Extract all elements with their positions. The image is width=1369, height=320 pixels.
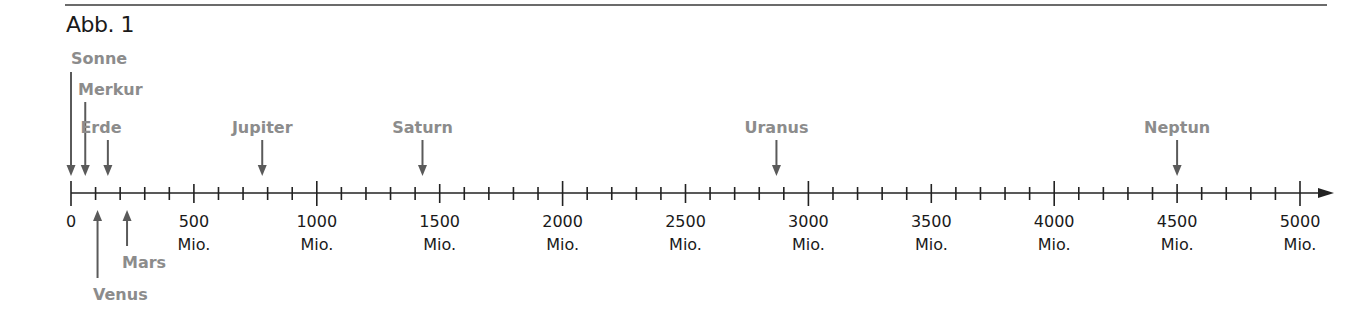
tick-label-unit: Mio.	[669, 235, 702, 254]
tick-label-unit: Mio.	[1161, 235, 1194, 254]
arrow-down-icon	[81, 165, 90, 176]
tick-label-value: 0	[66, 212, 76, 231]
tick-label-value: 3000	[788, 212, 829, 231]
tick-label-unit: Mio.	[792, 235, 825, 254]
number-line-chart: 0500Mio.1000Mio.1500Mio.2000Mio.2500Mio.…	[0, 0, 1369, 320]
solar-system-number-line-figure: Abb. 1 0500Mio.1000Mio.1500Mio.2000Mio.2…	[0, 0, 1369, 320]
arrow-up-icon	[123, 210, 132, 221]
planet-label-sonne: Sonne	[71, 49, 127, 68]
tick-label-value: 1500	[419, 212, 460, 231]
tick-label-unit: Mio.	[423, 235, 456, 254]
tick-label-value: 4000	[1034, 212, 1075, 231]
arrow-down-icon	[103, 165, 112, 176]
axis-arrowhead-icon	[1318, 188, 1334, 198]
planet-label-erde: Erde	[80, 118, 121, 137]
tick-label-value: 3500	[911, 212, 952, 231]
arrow-up-icon	[93, 210, 102, 221]
tick-label-unit: Mio.	[177, 235, 210, 254]
planet-label-uranus: Uranus	[744, 118, 808, 137]
planet-label-mars: Mars	[122, 253, 166, 272]
planet-label-saturn: Saturn	[392, 118, 453, 137]
tick-label-value: 2500	[665, 212, 706, 231]
tick-label-unit: Mio.	[300, 235, 333, 254]
arrow-down-icon	[258, 165, 267, 176]
arrow-down-icon	[1173, 165, 1182, 176]
tick-label-unit: Mio.	[1284, 235, 1317, 254]
tick-label-value: 5000	[1280, 212, 1321, 231]
tick-label-value: 2000	[542, 212, 583, 231]
planet-label-neptun: Neptun	[1144, 118, 1210, 137]
tick-label-unit: Mio.	[915, 235, 948, 254]
planet-label-jupiter: Jupiter	[231, 118, 293, 137]
tick-label-unit: Mio.	[1038, 235, 1071, 254]
tick-label-value: 4500	[1157, 212, 1198, 231]
arrow-down-icon	[772, 165, 781, 176]
arrow-down-icon	[67, 165, 76, 176]
tick-label-value: 1000	[296, 212, 337, 231]
tick-label-value: 500	[179, 212, 210, 231]
tick-label-unit: Mio.	[546, 235, 579, 254]
planet-label-merkur: Merkur	[78, 80, 143, 99]
arrow-down-icon	[418, 165, 427, 176]
planet-label-venus: Venus	[93, 285, 148, 304]
